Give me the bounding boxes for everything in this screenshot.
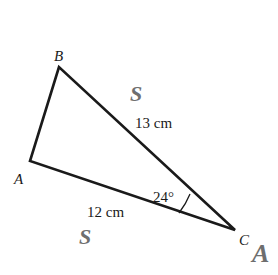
angle-c-label: 24° xyxy=(153,189,174,205)
triangle-diagram: B A C 13 cm 12 cm 24° S S A xyxy=(0,0,278,275)
side-ac-length: 12 cm xyxy=(87,204,124,220)
side-bc-length: 13 cm xyxy=(135,115,172,131)
vertex-label-c: C xyxy=(239,232,250,248)
angle-c-marker-a: A xyxy=(250,239,269,268)
angle-arc-c xyxy=(179,194,190,213)
vertex-label-b: B xyxy=(54,48,63,64)
vertex-label-a: A xyxy=(13,171,24,187)
side-bc-marker-s: S xyxy=(130,81,142,106)
side-ac-marker-s: S xyxy=(79,224,91,249)
